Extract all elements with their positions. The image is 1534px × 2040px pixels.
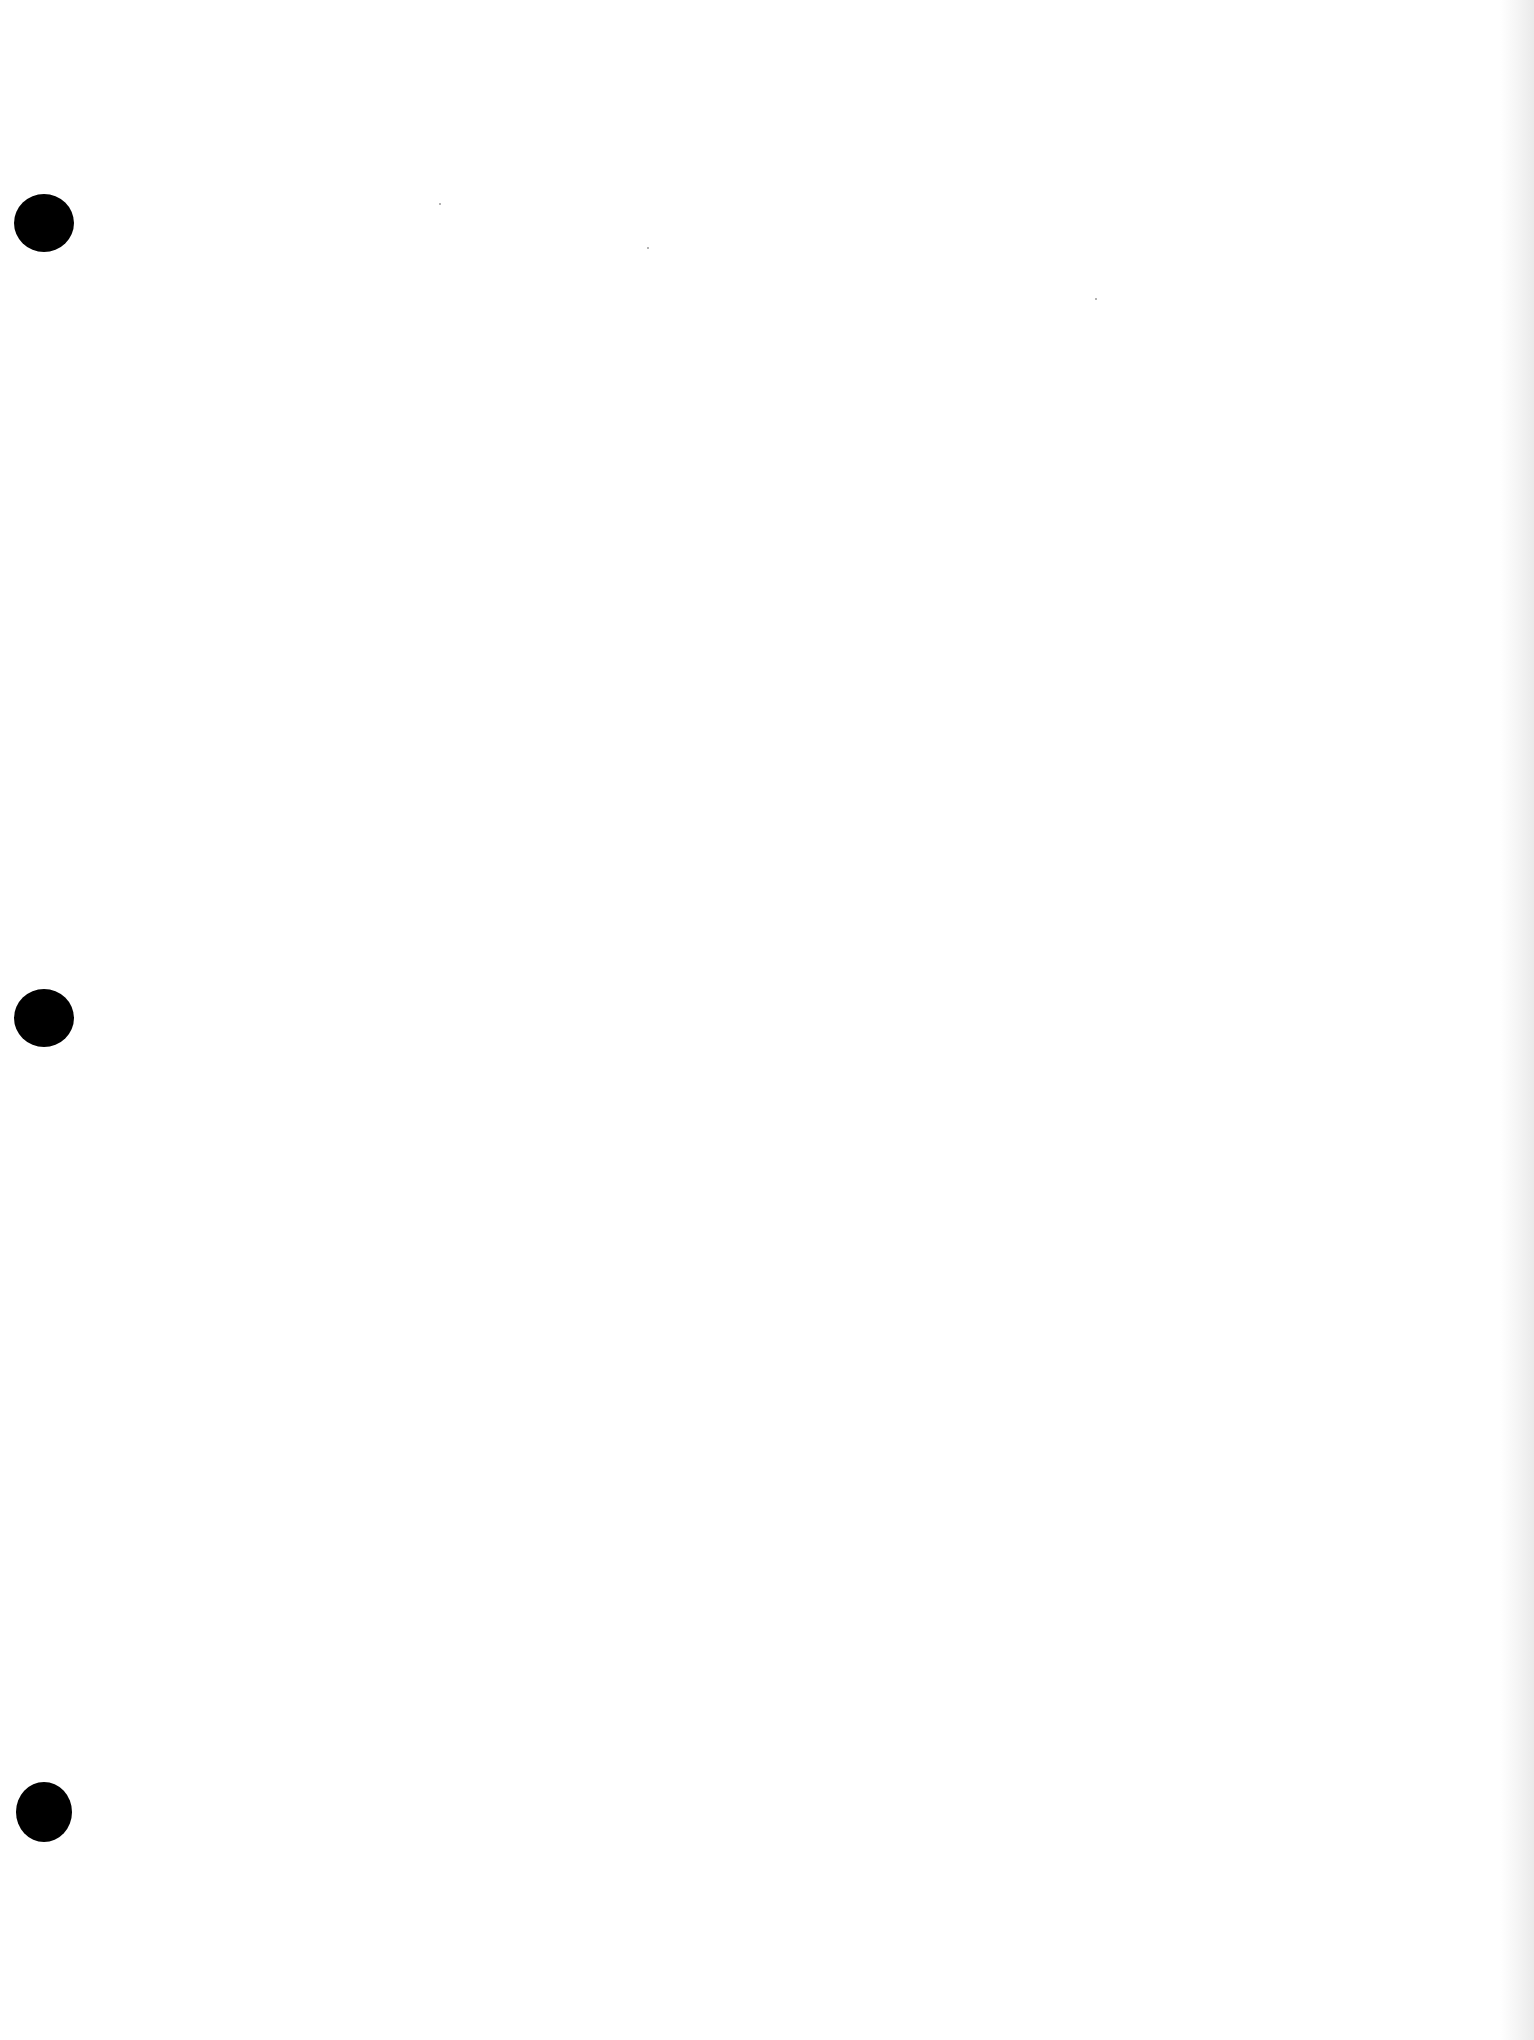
punch-hole-top-icon <box>14 194 74 252</box>
scan-speck <box>1095 298 1097 300</box>
scan-speck <box>647 247 649 249</box>
page-edge-shadow <box>1500 0 1534 2040</box>
blank-page <box>0 0 1534 2040</box>
scan-speck <box>439 203 441 205</box>
punch-hole-middle-icon <box>14 989 74 1047</box>
punch-hole-bottom-icon <box>16 1782 72 1842</box>
